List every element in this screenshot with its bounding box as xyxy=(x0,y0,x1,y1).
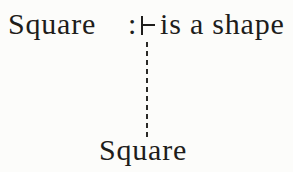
sort-declaration-figure: Square : is a shape Square xyxy=(0,0,293,172)
predicate-label: is a shape xyxy=(160,9,285,39)
dashed-connector-line xyxy=(146,42,148,140)
subject-label: Square xyxy=(8,9,96,39)
colon-separator: : xyxy=(128,9,137,39)
child-node-label: Square xyxy=(99,135,187,165)
turnstile-icon xyxy=(141,16,156,35)
turnstile-horizontal-stroke xyxy=(141,24,155,26)
